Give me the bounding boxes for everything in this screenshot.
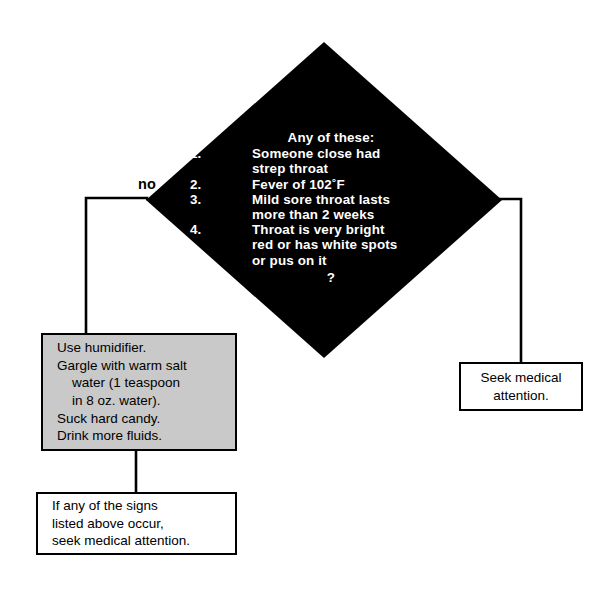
selfcare-line-3: water (1 teaspoon [57, 374, 235, 392]
seek-line-1: Seek medical [461, 369, 581, 387]
seek-medical-box[interactable]: Seek medical attention. [459, 362, 583, 411]
signs-line-2: listed above occur, [52, 515, 235, 533]
selfcare-line-1: Use humidifier. [57, 339, 235, 357]
signs-line-1: If any of the signs [52, 497, 235, 515]
signs-box[interactable]: If any of the signs listed above occur, … [36, 492, 237, 555]
flowchart-canvas: Any of these: 1.Someone close had strep … [0, 0, 610, 591]
branch-label-yes: yes [455, 176, 480, 192]
seek-line-2: attention. [461, 387, 581, 405]
selfcare-line-5: Suck hard candy. [57, 410, 235, 428]
selfcare-line-6: Drink more fluids. [57, 427, 235, 445]
selfcare-line-4: in 8 oz. water). [57, 392, 235, 410]
decision-node[interactable]: Any of these: 1.Someone close had strep … [146, 42, 502, 358]
seek-medical-box-text: Seek medical attention. [461, 369, 581, 404]
signs-box-text: If any of the signs listed above occur, … [52, 497, 235, 550]
selfcare-line-2: Gargle with warm salt [57, 357, 235, 375]
diamond-shape-icon [146, 42, 502, 358]
connector-no [86, 198, 147, 333]
selfcare-box-text: Use humidifier. Gargle with warm salt wa… [57, 339, 235, 445]
branch-label-no: no [138, 176, 156, 192]
selfcare-box[interactable]: Use humidifier. Gargle with warm salt wa… [41, 333, 237, 451]
signs-line-3: seek medical attention. [52, 532, 235, 550]
